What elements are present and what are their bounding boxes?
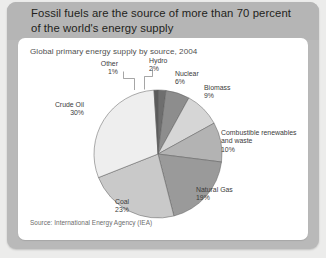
leader-line-other	[124, 72, 135, 91]
pie-label-crude-oil: Crude Oil 30%	[28, 101, 84, 118]
screenshot-root: Fossil fuels are the source of more than…	[0, 0, 326, 258]
pie-label-biomass: Biomass 9%	[204, 84, 254, 101]
figure-title: Fossil fuels are the source of more than…	[31, 6, 303, 35]
pie-label-combustible-renewables: Combustible renewables and waste 10%	[221, 129, 305, 154]
figure-panel: Fossil fuels are the source of more than…	[7, 2, 319, 249]
chart-source: Source: International Energy Agency (IEA…	[30, 219, 152, 226]
chart-card: Global primary energy supply by source, …	[18, 38, 308, 240]
pie-chart: Other 1% Hydro 2% Nuclear 6% Biomass 9% …	[18, 38, 308, 240]
figure-header: Fossil fuels are the source of more than…	[7, 2, 319, 40]
pie-label-other: Other 1%	[56, 60, 118, 77]
pie-label-coal: Coal 23%	[98, 198, 146, 215]
pie-label-natural-gas: Natural Gas 19%	[196, 186, 268, 203]
